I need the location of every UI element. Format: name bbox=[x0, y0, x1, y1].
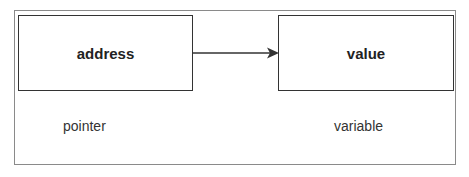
pointer-caption: pointer bbox=[63, 118, 106, 134]
variable-caption: variable bbox=[334, 118, 383, 134]
value-box-text: value bbox=[347, 45, 385, 62]
arrow-icon bbox=[192, 44, 280, 62]
address-box-text: address bbox=[77, 45, 135, 62]
value-box: value bbox=[278, 15, 454, 91]
address-box: address bbox=[18, 15, 193, 91]
